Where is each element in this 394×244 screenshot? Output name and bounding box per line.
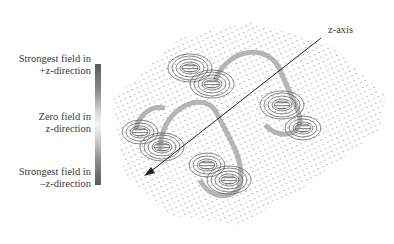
- legend-label-negative: Strongest field in –z-direction: [0, 166, 91, 190]
- z-axis-label: z-axis: [328, 24, 353, 35]
- legend-label-positive: Strongest field in +z-direction: [0, 53, 91, 77]
- colorbar: [95, 64, 101, 185]
- legend-label-zero: Zero field in z-direction: [0, 111, 91, 135]
